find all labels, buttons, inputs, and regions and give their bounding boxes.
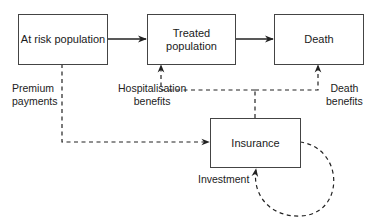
label-investment: Investment xyxy=(198,173,249,186)
node-label: Death xyxy=(304,33,333,46)
label-line: Hospitalisation xyxy=(118,82,186,95)
label-line: Premium xyxy=(12,82,58,95)
node-at-risk-population: At risk population xyxy=(18,14,108,65)
node-label: At risk population xyxy=(21,33,105,46)
label-line: payments xyxy=(12,95,58,108)
node-label: Insurance xyxy=(231,137,279,150)
label-hospitalisation-benefits: Hospitalisation benefits xyxy=(118,82,186,107)
label-premium-payments: Premium payments xyxy=(12,82,58,107)
label-line: benefits xyxy=(326,95,363,108)
node-treated-population: Treated population xyxy=(147,14,236,65)
label-line: Death xyxy=(326,82,363,95)
death-benefits-path xyxy=(255,65,318,90)
node-insurance: Insurance xyxy=(210,118,301,168)
label-line: benefits xyxy=(118,95,186,108)
label-death-benefits: Death benefits xyxy=(326,82,363,107)
node-label-line1: Treated xyxy=(173,27,211,40)
node-death: Death xyxy=(274,14,364,65)
insurance-flow-diagram: At risk population Treated population De… xyxy=(0,0,373,221)
node-label-line2: population xyxy=(166,40,217,53)
